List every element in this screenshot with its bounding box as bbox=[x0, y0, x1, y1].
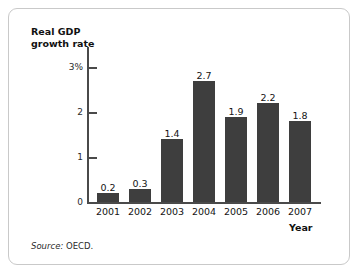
bar-value-2005: 1.9 bbox=[221, 107, 251, 117]
bar-group-2004: 2.7 bbox=[189, 47, 219, 202]
bar-value-2007: 1.8 bbox=[285, 111, 315, 121]
bar-2005[interactable] bbox=[225, 117, 247, 203]
bar-group-2003: 1.4 bbox=[157, 47, 187, 202]
bar-2002[interactable] bbox=[129, 189, 151, 203]
x-tick-label-2003: 2003 bbox=[157, 206, 187, 217]
x-tick-label-2005: 2005 bbox=[221, 206, 251, 217]
bar-value-2006: 2.2 bbox=[253, 93, 283, 103]
y-axis-line bbox=[87, 47, 89, 203]
y-tick-label-2: 2 bbox=[53, 108, 83, 117]
bar-chart: Real GDP growth rate 3% 2 1 0 0.2 0.3 bbox=[9, 9, 351, 266]
x-tick-label-2004: 2004 bbox=[189, 206, 219, 217]
x-tick-label-2001: 2001 bbox=[93, 206, 123, 217]
source-label: Source: bbox=[31, 241, 63, 251]
bar-group-2002: 0.3 bbox=[125, 47, 155, 202]
y-tick-label-3: 3% bbox=[53, 63, 83, 72]
y-tick-label-3-text: 3% bbox=[57, 63, 83, 72]
x-tick-label-2006: 2006 bbox=[253, 206, 283, 217]
bar-group-2001: 0.2 bbox=[93, 47, 123, 202]
bar-group-2006: 2.2 bbox=[253, 47, 283, 202]
figure-card: Real GDP growth rate 3% 2 1 0 0.2 0.3 bbox=[8, 8, 350, 265]
source-note: Source: OECD. bbox=[31, 241, 93, 251]
bar-value-2004: 2.7 bbox=[189, 71, 219, 81]
bar-value-2002: 0.3 bbox=[125, 179, 155, 189]
bar-value-2003: 1.4 bbox=[157, 129, 187, 139]
y-tick-label-1-text: 1 bbox=[57, 153, 83, 162]
bar-2001[interactable] bbox=[97, 193, 119, 202]
y-tick-label-0-text: 0 bbox=[57, 198, 83, 207]
x-tick-label-2002: 2002 bbox=[125, 206, 155, 217]
bar-2004[interactable] bbox=[193, 81, 215, 203]
y-tick-label-1: 1 bbox=[53, 153, 83, 162]
bar-2007[interactable] bbox=[289, 121, 311, 202]
bar-value-2001: 0.2 bbox=[93, 183, 123, 193]
x-axis-title: Year bbox=[289, 222, 313, 233]
source-value: OECD. bbox=[66, 241, 93, 251]
y-axis-title: Real GDP growth rate bbox=[31, 26, 101, 49]
bar-2006[interactable] bbox=[257, 103, 279, 202]
y-tick-label-0: 0 bbox=[53, 198, 83, 207]
x-tick-label-2007: 2007 bbox=[285, 206, 315, 217]
bar-2003[interactable] bbox=[161, 139, 183, 202]
bar-group-2005: 1.9 bbox=[221, 47, 251, 202]
y-tick-label-2-text: 2 bbox=[57, 108, 83, 117]
x-axis-line bbox=[87, 202, 321, 204]
bar-group-2007: 1.8 bbox=[285, 47, 315, 202]
